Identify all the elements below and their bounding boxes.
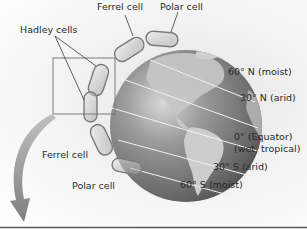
polar-cell-north-loop [145,31,178,48]
equator-sublabel: (wet, tropical) [234,143,300,154]
latitude-30s-label: 30° S (arid) [213,161,268,172]
ferrel-cell-north-label: Ferrel cell [97,1,143,12]
latitude-30n-label: 30° N (arid) [240,92,296,103]
polar-cell-south-label: Polar cell [72,180,115,191]
ferrel-cell-south-label: Ferrel cell [42,149,88,160]
hadley-cell-south-loop [84,92,97,122]
polar-cell-north-label: Polar cell [160,1,203,12]
equator-label: 0° (Equator) [234,131,293,142]
latitude-60s-label: 60° S (moist) [180,179,243,190]
curved-arrow [10,114,56,222]
ferrel-cell-north-loop [112,35,147,65]
hadley-cells-label: Hadley cells [20,24,77,35]
latitude-60n-label: 60° N (moist) [228,66,292,77]
diagram-canvas: Hadley cells Ferrel cell Polar cell Ferr… [0,0,307,229]
